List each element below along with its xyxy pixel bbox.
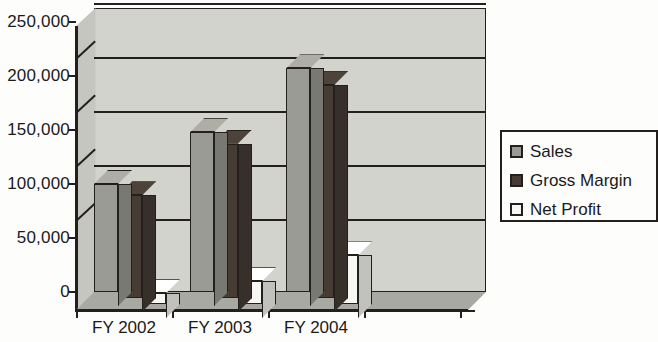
bar-side-face (334, 85, 348, 312)
bar-side-face (310, 68, 324, 306)
legend-label: Sales (530, 142, 573, 162)
x-axis-tick-label: FY 2002 (92, 318, 156, 338)
plot-area (76, 8, 486, 310)
legend-swatch-icon (510, 145, 523, 158)
y-axis-tickmark (68, 291, 76, 293)
bar-side-face (214, 132, 228, 306)
bar-side-face (262, 281, 276, 318)
y-axis-tickmark (68, 21, 76, 23)
y-axis-tickmark (68, 75, 76, 77)
y-axis-tick-label: 150,000 (7, 120, 70, 140)
bar-side-face (358, 255, 372, 318)
x-axis-tick-label: FY 2004 (284, 318, 348, 338)
legend-swatch-icon (510, 174, 523, 187)
y-axis-tick-label: 250,000 (7, 12, 70, 32)
axis-depth-connector (76, 58, 96, 77)
legend-label: Gross Margin (530, 171, 632, 191)
axis-depth-connector (76, 220, 96, 239)
legend-label: Net Profit (530, 200, 601, 220)
bar-side-face (166, 293, 180, 318)
bar-top-face (190, 118, 228, 132)
bar-sales-fy-2003 (190, 132, 214, 292)
axis-depth-connector (76, 166, 96, 185)
y-axis-line (75, 26, 77, 311)
bar-side-face (238, 144, 252, 312)
bar-top-face (286, 54, 324, 68)
x-axis-tick-label: FY 2003 (188, 318, 252, 338)
y-axis-tick-label: 50,000 (17, 228, 70, 248)
bar-sales-fy-2002 (94, 184, 118, 292)
axis-depth-connector (76, 112, 96, 131)
legend-swatch-icon (510, 203, 523, 216)
bar-top-face (94, 170, 132, 184)
bar-side-face (142, 195, 156, 312)
gridline (94, 3, 486, 5)
chart-legend: SalesGross MarginNet Profit (500, 130, 658, 222)
x-axis-tickmark (460, 310, 462, 318)
legend-item: Gross Margin (510, 166, 656, 195)
y-axis-tick-label: 200,000 (7, 66, 70, 86)
y-axis-tick-label: 100,000 (7, 174, 70, 194)
x-axis-tickmark (76, 310, 78, 318)
legend-item: Net Profit (510, 195, 656, 224)
y-axis-tickmark (68, 237, 76, 239)
y-axis-tickmark (68, 129, 76, 131)
bar-front-face (190, 132, 214, 292)
bar-front-face (94, 184, 118, 292)
y-axis-tickmark (68, 183, 76, 185)
bar-side-face (118, 184, 132, 306)
legend-item: Sales (510, 137, 656, 166)
y-axis-labels: 050,000100,000150,000200,000250,000 (0, 0, 70, 342)
bar-front-face (286, 68, 310, 292)
bar-sales-fy-2004 (286, 68, 310, 292)
